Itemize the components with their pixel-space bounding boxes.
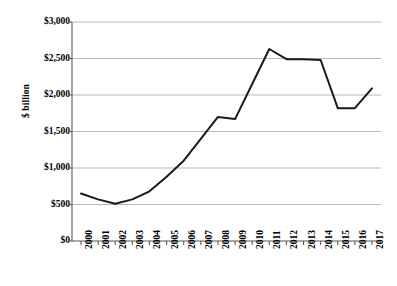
x-axis-ticks (81, 241, 372, 245)
line-chart: $ billion $0$500$1,000$1,500$2,000$2,500… (0, 0, 397, 286)
plot-area (0, 0, 397, 286)
data-series-line (81, 49, 372, 204)
y-axis-ticks (68, 22, 72, 241)
gridlines (72, 22, 381, 205)
